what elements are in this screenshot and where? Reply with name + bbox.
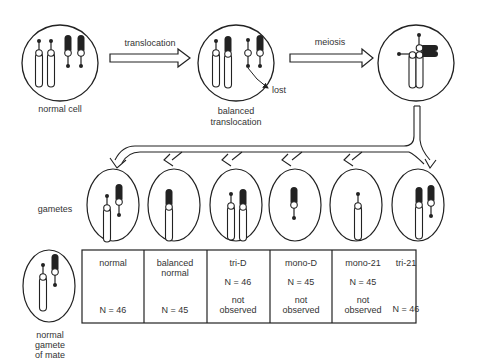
balanced-translocation-cell [198,25,274,101]
translocation-arrow-label: translocation [110,38,190,49]
gamete-tri-d [210,169,262,241]
gamete-mono-21 [330,169,382,241]
meiosis-arrow [290,49,373,67]
meiosis-trivalent-cell [378,25,454,101]
col-title: tri-21 [361,258,451,268]
lost-label: lost [272,85,302,96]
gamete-balanced [148,169,200,241]
balanced-label-line1: balanced [196,106,276,117]
gamete-normal [87,169,139,242]
translocation-arrow [110,49,190,67]
gametes-label: gametes [30,204,80,215]
col-n: N = 45 [318,277,408,287]
gamete-tri-21 [392,169,444,241]
mate-label-line3: of mate [20,350,80,360]
gamete-mono-d [269,169,321,241]
normal-cell [22,25,98,101]
balanced-label-line2: translocation [196,117,276,128]
col-n: N = 46 [361,304,451,314]
normal-cell-label: normal cell [20,104,100,115]
meiosis-arrow-label: meiosis [300,37,360,48]
